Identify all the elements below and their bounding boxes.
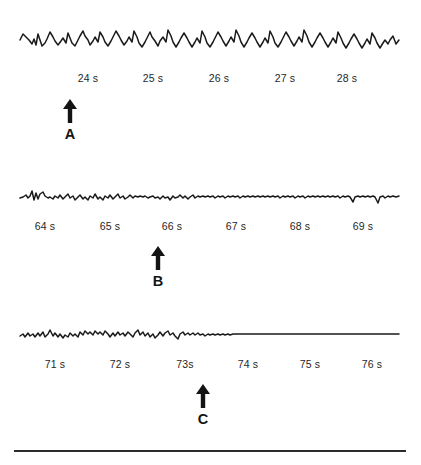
trace-c-plot xyxy=(0,318,421,352)
tick-label-67s: 67 s xyxy=(226,220,247,232)
tick-label-69s: 69 s xyxy=(353,220,374,232)
marker-a: A xyxy=(55,98,85,142)
marker-c-letter: C xyxy=(188,412,218,427)
trace-c-line xyxy=(20,330,399,339)
tick-label-75s: 75 s xyxy=(300,358,321,370)
marker-b: B xyxy=(143,245,173,289)
arrow-up-glyph xyxy=(151,246,165,270)
panel-a: 24 s 25 s 26 s 27 s 28 s A xyxy=(0,0,421,155)
tick-label-72s: 72 s xyxy=(110,358,131,370)
panel-b-tick-labels: 64 s 65 s 66 s 67 s 68 s 69 s xyxy=(0,220,421,236)
tick-label-71s: 71 s xyxy=(45,358,66,370)
trace-a-container xyxy=(0,10,421,62)
trace-a-line xyxy=(20,30,399,48)
trace-b-plot xyxy=(0,180,421,214)
bottom-divider-rule xyxy=(14,450,406,452)
tick-label-73s: 73s xyxy=(176,358,194,370)
tick-label-26s: 26 s xyxy=(209,72,230,84)
tick-label-28s: 28 s xyxy=(337,72,358,84)
marker-a-letter: A xyxy=(55,127,85,142)
tick-label-74s: 74 s xyxy=(238,358,259,370)
tick-label-27s: 27 s xyxy=(275,72,296,84)
tick-label-76s: 76 s xyxy=(362,358,383,370)
trace-b-container xyxy=(0,180,421,214)
panel-a-tick-labels: 24 s 25 s 26 s 27 s 28 s xyxy=(0,72,421,88)
tick-label-66s: 66 s xyxy=(162,220,183,232)
tick-label-24s: 24 s xyxy=(78,72,99,84)
arrow-up-icon xyxy=(55,98,85,124)
panel-b: 64 s 65 s 66 s 67 s 68 s 69 s B xyxy=(0,155,421,300)
arrow-up-glyph xyxy=(63,99,77,123)
marker-b-letter: B xyxy=(143,274,173,289)
tick-label-64s: 64 s xyxy=(35,220,56,232)
trace-a-plot xyxy=(0,10,421,62)
eeg-trace-figure: 24 s 25 s 26 s 27 s 28 s A 64 s 65 s 66 … xyxy=(0,0,421,465)
trace-c-container xyxy=(0,318,421,352)
trace-b-line xyxy=(20,191,399,203)
arrow-up-icon xyxy=(188,383,218,409)
tick-label-68s: 68 s xyxy=(290,220,311,232)
panel-c: 71 s 72 s 73s 74 s 75 s 76 s C xyxy=(0,295,421,445)
tick-label-25s: 25 s xyxy=(143,72,164,84)
panel-c-tick-labels: 71 s 72 s 73s 74 s 75 s 76 s xyxy=(0,358,421,374)
arrow-up-glyph xyxy=(196,384,210,408)
marker-c: C xyxy=(188,383,218,427)
tick-label-65s: 65 s xyxy=(100,220,121,232)
arrow-up-icon xyxy=(143,245,173,271)
